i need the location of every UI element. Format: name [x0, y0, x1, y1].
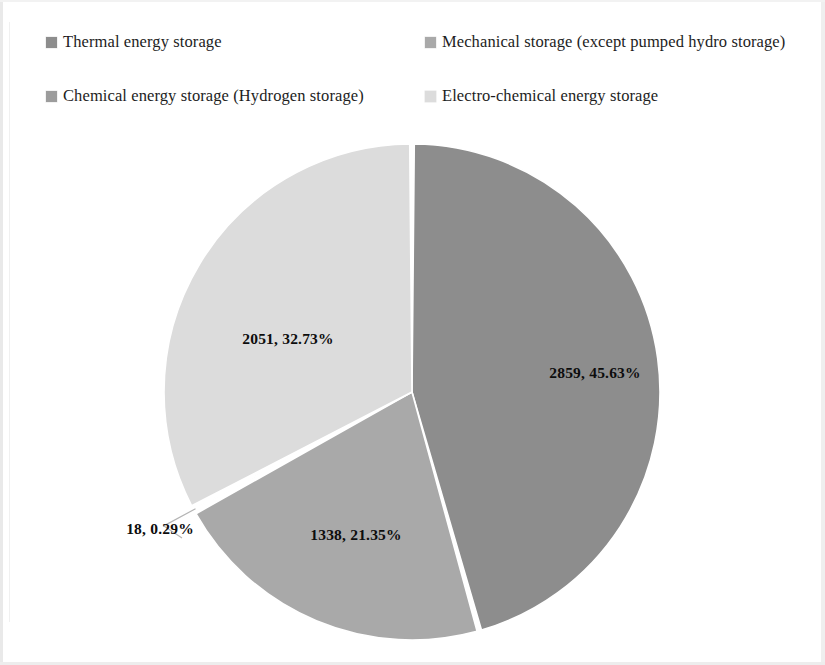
slice-label-thermal: 2859, 45.63% — [549, 364, 641, 381]
pie-slices-group — [164, 144, 660, 640]
pie-chart: 2859, 45.63% 2051, 32.73% 1338, 21.35% 1… — [0, 0, 825, 665]
slice-label-electrochemical: 2051, 32.73% — [242, 330, 334, 347]
slice-label-mechanical: 1338, 21.35% — [310, 526, 402, 543]
pie-chart-canvas: 2859, 45.63% 2051, 32.73% 1338, 21.35% 1… — [0, 0, 825, 665]
slice-label-chemical: 18, 0.29% — [126, 520, 194, 537]
